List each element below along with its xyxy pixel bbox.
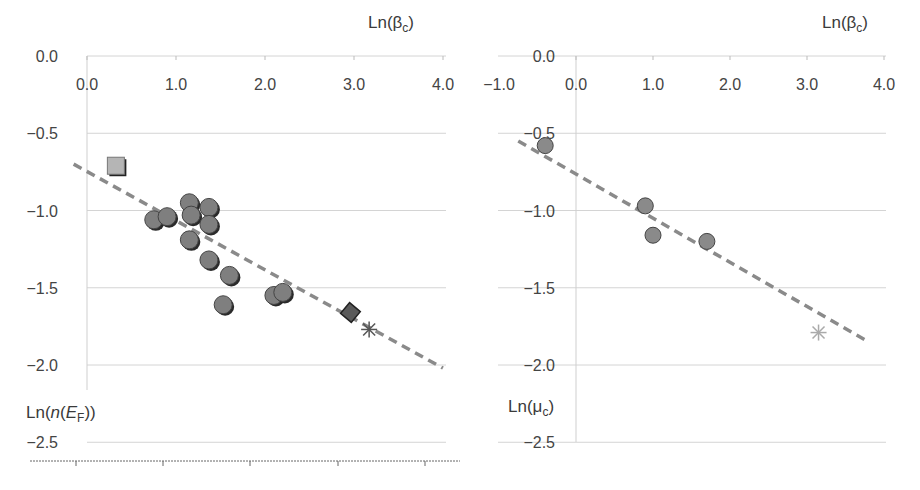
fit-line bbox=[518, 141, 868, 342]
circle-marker bbox=[645, 227, 661, 243]
figure: 0.0−0.5−1.0−1.5−2.0−2.50.01.02.03.04.0 0… bbox=[0, 0, 920, 490]
circle-marker bbox=[274, 283, 292, 301]
x-tick-label: 2.0 bbox=[719, 76, 741, 93]
circle-marker bbox=[180, 231, 198, 249]
left-chart: 0.0−0.5−1.0−1.5−2.0−2.50.01.02.03.04.0 bbox=[26, 48, 454, 451]
asterisk-marker bbox=[361, 321, 377, 337]
y-tick-label: −1.0 bbox=[523, 203, 555, 220]
y-tick-label: −2.0 bbox=[26, 357, 58, 374]
y-tick-label: −1.0 bbox=[26, 203, 58, 220]
circle-marker bbox=[182, 206, 200, 224]
y-tick-label: −2.0 bbox=[523, 357, 555, 374]
circle-marker bbox=[200, 198, 218, 216]
circle-marker bbox=[637, 198, 653, 214]
square-marker bbox=[107, 157, 124, 174]
x-tick-label: 0.0 bbox=[76, 76, 98, 93]
x-tick-label: 4.0 bbox=[873, 76, 895, 93]
x-tick-label: 3.0 bbox=[343, 76, 365, 93]
left-x-axis-title: Ln(βc) bbox=[368, 13, 414, 35]
y-tick-label: −2.5 bbox=[26, 434, 58, 451]
y-tick-label: −2.5 bbox=[523, 434, 555, 451]
x-tick-label: 1.0 bbox=[165, 76, 187, 93]
x-tick-label: −1.0 bbox=[483, 76, 515, 93]
circle-marker bbox=[537, 138, 553, 154]
circle-marker bbox=[158, 208, 176, 226]
x-tick-label: 1.0 bbox=[642, 76, 664, 93]
left-y-axis-title: Ln(n(EF)) bbox=[26, 403, 96, 425]
right-chart: 0.0−0.5−1.0−1.5−2.0−2.5−1.00.01.02.03.04… bbox=[483, 48, 895, 451]
y-tick-label: −1.5 bbox=[26, 280, 58, 297]
right-x-axis-title: Ln(βc) bbox=[822, 13, 868, 35]
y-tick-label: −0.5 bbox=[26, 125, 58, 142]
fit-line bbox=[74, 164, 443, 368]
y-tick-label: 0.0 bbox=[36, 48, 58, 65]
circle-marker bbox=[699, 233, 715, 249]
x-tick-label: 3.0 bbox=[796, 76, 818, 93]
x-tick-label: 4.0 bbox=[432, 76, 454, 93]
circle-marker bbox=[200, 215, 218, 233]
left-bottom-ruler bbox=[30, 461, 460, 466]
x-tick-label: 0.0 bbox=[565, 76, 587, 93]
x-tick-label: 2.0 bbox=[254, 76, 276, 93]
y-tick-label: −1.5 bbox=[523, 280, 555, 297]
circle-marker bbox=[220, 266, 238, 284]
right-y-axis-title: Ln(μc) bbox=[508, 397, 554, 419]
circle-marker bbox=[200, 251, 218, 269]
circle-marker bbox=[214, 296, 232, 314]
y-tick-label: 0.0 bbox=[533, 48, 555, 65]
asterisk-marker bbox=[811, 325, 827, 341]
